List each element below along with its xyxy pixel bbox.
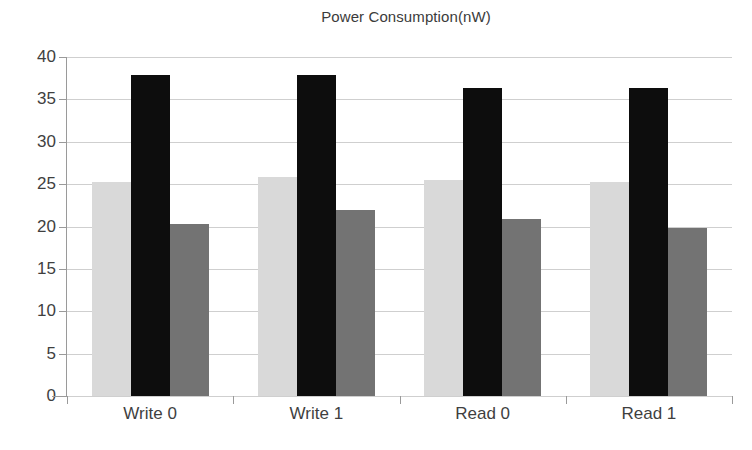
bar-read-1-series-2 [629, 88, 668, 396]
bar-write-1-series-1 [258, 177, 297, 397]
bar-write-1-series-3 [336, 210, 375, 396]
y-axis-tick-label: 10 [16, 302, 56, 319]
x-axis-category-label: Write 0 [67, 404, 233, 424]
bar-chart: Power Consumption(nW) 4035302520151050 W… [0, 0, 752, 450]
y-axis-tick-label: 40 [16, 48, 56, 65]
y-axis-tick-label: 20 [16, 218, 56, 235]
y-axis-tick-label: 35 [16, 90, 56, 107]
y-axis-tick-label: 30 [16, 133, 56, 150]
y-tick-mark [59, 57, 67, 58]
y-axis-labels: 4035302520151050 [8, 0, 56, 450]
y-axis-tick-label: 15 [16, 260, 56, 277]
y-tick-mark [59, 396, 67, 397]
bar-write-0-series-1 [92, 182, 131, 396]
y-axis-tick-label: 25 [16, 175, 56, 192]
x-axis-category-label: Read 0 [400, 404, 566, 424]
y-tick-mark [59, 99, 67, 100]
bar-write-1-series-2 [297, 75, 336, 396]
bar-read-1-series-3 [668, 228, 707, 396]
bar-read-0-series-3 [502, 219, 541, 396]
chart-title: Power Consumption(nW) [0, 8, 752, 25]
bar-write-0-series-2 [131, 75, 170, 396]
x-axis-category-label: Read 1 [566, 404, 732, 424]
bar-write-0-series-3 [170, 224, 209, 396]
y-tick-mark [59, 269, 67, 270]
x-axis-category-label: Write 1 [233, 404, 399, 424]
plot-area [67, 57, 732, 396]
gridline [67, 57, 732, 58]
x-tick-mark [566, 396, 567, 404]
bar-read-0-series-1 [424, 180, 463, 396]
y-tick-mark [59, 227, 67, 228]
y-tick-mark [59, 354, 67, 355]
y-tick-mark [59, 311, 67, 312]
y-tick-mark [59, 184, 67, 185]
x-tick-mark [732, 396, 733, 404]
y-axis-tick-label: 5 [16, 345, 56, 362]
y-axis-tick-label: 0 [16, 387, 56, 404]
x-tick-mark [233, 396, 234, 404]
bar-read-0-series-2 [463, 88, 502, 396]
bar-read-1-series-1 [590, 182, 629, 396]
y-tick-mark [59, 142, 67, 143]
x-tick-mark [67, 396, 68, 404]
x-tick-mark [400, 396, 401, 404]
